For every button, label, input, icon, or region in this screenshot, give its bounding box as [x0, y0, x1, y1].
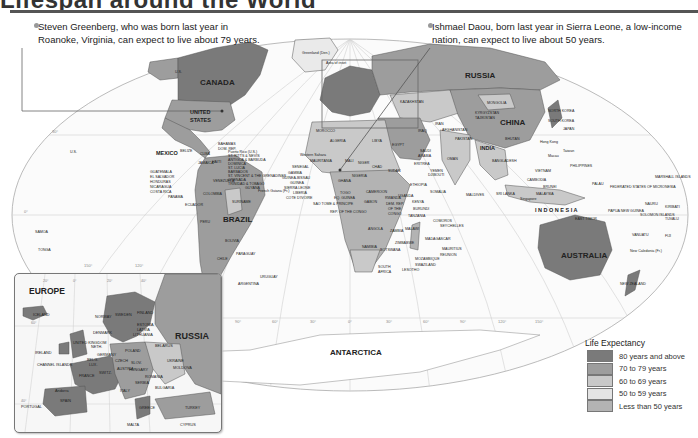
label-gambia: GAMBIA	[288, 171, 303, 175]
label-canada: CANADA	[200, 78, 235, 87]
label-tanzania: TANZANIA	[408, 214, 426, 218]
inset-label-lithuania: LITHUANIA	[133, 333, 153, 337]
label-chile: CHILE	[217, 257, 228, 261]
label-comoros: COMOROS	[433, 219, 453, 223]
label-lesotho: LESOTHO	[402, 268, 419, 272]
inset-label-andorra: Andorra	[55, 389, 69, 393]
legend-label: 60 to 69 years	[619, 377, 667, 386]
inset-label-channel: CHANNEL ISLANDS	[37, 363, 73, 367]
inset-label-russia: RUSSIA	[175, 331, 210, 341]
label-oman: OMAN	[447, 157, 458, 161]
label-botswana: BOTSWANA	[380, 248, 401, 252]
label-kenya: KENYA	[412, 200, 425, 204]
label-mozambique: MOZAMBIQUE	[415, 257, 440, 261]
label-argentina: ARGENTINA	[238, 282, 260, 286]
lat-label: 0°	[24, 209, 28, 214]
label-gabon: GABON	[364, 200, 377, 204]
lon-label: 150°	[535, 319, 544, 324]
inset-label-latvia: LATVIA	[137, 328, 150, 332]
label-guinea: GUINEA	[290, 181, 304, 185]
label-bangladesh: BANGLADESH	[492, 159, 517, 163]
label-angola: ANGOLA	[368, 227, 384, 231]
label-bolivia: BOLIVIA	[225, 239, 240, 243]
label-indonesia: I N D O N E S I A	[535, 207, 578, 213]
label-palau: PALAU	[592, 182, 604, 186]
callout-left: Steven Greenberg, who was born last year…	[38, 20, 260, 46]
label-us: UNITED	[190, 109, 211, 115]
label-india: INDIA	[480, 145, 495, 151]
inset-label-belgium: BELG.	[87, 358, 98, 362]
callout-right-line1: Ishmael Daou, born last year in Sierra L…	[432, 20, 682, 33]
label-cambodia: CAMBODIA	[527, 178, 547, 182]
legend-swatch	[587, 400, 613, 412]
label-tuvalu: TUVALU	[665, 217, 679, 221]
label-brunei: BRUNEI	[543, 185, 557, 189]
label-senegal: SENEGAL	[292, 165, 309, 169]
label-greenland: Greenland (Den.)	[302, 51, 330, 55]
label-japan: JAPAN	[563, 127, 575, 131]
label-mali: MALI	[345, 159, 353, 163]
lon-label: 120°	[135, 263, 144, 268]
legend-swatch	[587, 375, 613, 387]
inset-label-italy: ITALY	[120, 389, 130, 393]
label-cote-divoire: COTE D'IVOIRE	[286, 196, 313, 200]
label-ghana: GHANA	[338, 179, 351, 183]
lon-label: 60°	[272, 319, 278, 324]
label-kyrgyzstan: KYRGYZSTAN	[475, 111, 499, 115]
inset-lat-label: 40°	[21, 399, 27, 403]
label-eritrea: ERITREA	[414, 162, 430, 166]
label-el-salvador: EL SALVADOR	[150, 175, 175, 179]
label-paraguay: PARAGUAY	[236, 252, 256, 256]
label-belize: BELIZE	[180, 149, 193, 153]
label-swaziland: SWAZILAND	[415, 263, 436, 267]
lon-label: 120°	[498, 319, 507, 324]
label-uruguay: URUGUAY	[260, 275, 278, 279]
inset-label-spain: SPAIN	[60, 399, 71, 403]
inset-label-switz: SWITZ.	[99, 371, 112, 375]
label-papua: PAPUA NEW GUINEA	[608, 209, 644, 213]
legend-item: 70 to 79 years	[587, 363, 685, 376]
legend-item: 50 to 59 years	[587, 388, 685, 401]
label-tonga: TONGA	[38, 248, 51, 252]
label-egypt: EGYPT	[392, 143, 405, 147]
inset-label-denmark: DENMARK	[93, 331, 112, 335]
label-iraq: IRAQ	[418, 129, 427, 133]
inset-lon-label: 20°	[107, 279, 113, 283]
inset-label-cyprus: CYPRUS	[180, 423, 196, 427]
label-rep-congo: REP. OF THE CONGO	[330, 210, 367, 214]
label-nicaragua: NICARAGUA	[150, 185, 172, 189]
inset-label-czech: CZECH	[115, 359, 128, 363]
inset-label-poland: POLAND	[125, 349, 141, 353]
label-us-2: STATES	[190, 117, 211, 123]
label-costa-rica: COSTA RICA	[150, 190, 172, 194]
label-haiti: HAITI	[212, 160, 221, 164]
label-sao-tome: SAO TOME & PRINCIPE	[313, 202, 354, 206]
label-samoa: SAMOA	[35, 230, 49, 234]
label-marshall: MARSHALL ISLANDS	[655, 175, 691, 179]
label-macau: Macau	[548, 154, 559, 158]
inset-label-slovakia: SLOV.	[131, 361, 142, 365]
label-china: CHINA	[500, 118, 526, 127]
legend-title: Life Expectancy	[585, 338, 685, 348]
callout-left-line1: Steven Greenberg, who was born last year…	[38, 20, 260, 33]
callout-right: Ishmael Daou, born last year in Sierra L…	[432, 20, 682, 46]
inset-label-malta: MALTA	[127, 423, 140, 427]
label-nigeria: NIGERIA	[352, 174, 367, 178]
lon-label: 90°	[460, 319, 466, 324]
label-south-korea: SOUTH KOREA	[548, 119, 575, 123]
callout-left-line2: Roanoke, Virginia, can expect to live ab…	[38, 33, 260, 46]
label-drc: DEM. REP.	[386, 202, 404, 206]
label-ethiopia: ETHIOPIA	[410, 183, 427, 187]
callout-right-line2: nation, can expect to live about 50 year…	[432, 33, 682, 46]
label-brazil: BRAZIL	[223, 215, 252, 224]
inset-label-ukraine: UKRAINE	[167, 359, 184, 363]
label-russia: RUSSIA	[465, 71, 495, 80]
label-madagascar: MADAGASCAR	[425, 237, 451, 241]
label-sierra-leone: SIERRA LEONE	[284, 186, 311, 190]
inset-lat-label: 60°	[31, 321, 37, 325]
callout-left-dot	[34, 23, 39, 28]
legend-swatch	[587, 388, 613, 400]
label-ecuador: ECUADOR	[185, 203, 203, 207]
legend-swatch	[587, 363, 613, 375]
label-maldives: MALDIVES	[466, 193, 485, 197]
